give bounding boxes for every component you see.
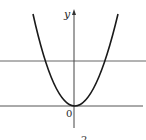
y-axis-arrow-icon [72,9,76,15]
origin-label: 0 [66,108,72,119]
function-graph: y 0 2 [0,0,146,140]
caption-fragment: 2 [81,134,87,140]
y-axis-label: y [63,8,71,21]
parabola-curve [33,14,118,106]
